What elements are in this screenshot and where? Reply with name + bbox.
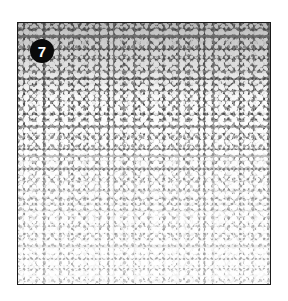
micrograph-panel [17, 22, 271, 285]
panel-number-label: 7 [38, 43, 46, 60]
panel-number-badge: 7 [30, 39, 54, 63]
micrograph-bottom-fade [18, 23, 270, 284]
